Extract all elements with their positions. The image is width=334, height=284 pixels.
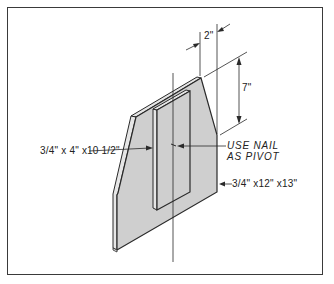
board-leader-arrow — [219, 182, 225, 187]
nail-note-line2: AS PIVOT — [227, 151, 280, 162]
board-drawing — [0, 0, 334, 284]
dim2-arrow-right — [217, 27, 224, 32]
strip-size-label: 3/4" x 4" x10 1/2" — [40, 145, 120, 156]
strip-face — [157, 91, 190, 210]
dim-width-label: 2" — [204, 30, 214, 41]
dim7-arrow-top — [237, 57, 242, 65]
board-size-label: 3/4" x12" x13" — [232, 178, 297, 189]
nail-note-line1: USE NAIL — [227, 140, 279, 151]
dim7-ext-bottom — [220, 119, 247, 135]
dim2-arrow-left — [193, 43, 200, 48]
dim-height-label: 7" — [242, 82, 252, 93]
